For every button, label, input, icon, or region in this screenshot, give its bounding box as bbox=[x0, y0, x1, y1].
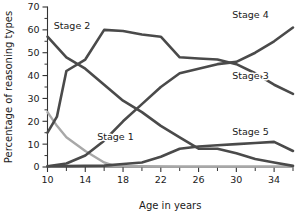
chart-plot-area: 01020304050607010141822263034Age in year… bbox=[0, 0, 301, 215]
x-axis-tick-label: 22 bbox=[155, 174, 167, 185]
series-line-stage-5 bbox=[48, 142, 294, 166]
x-axis-tick-label: 18 bbox=[117, 174, 129, 185]
y-axis-tick-label: 70 bbox=[27, 1, 39, 12]
series-label-stage-3: Stage 3 bbox=[232, 70, 269, 81]
series-line-stage-2 bbox=[48, 37, 294, 166]
y-axis-tick-label: 10 bbox=[27, 139, 39, 150]
series-label-stage-5: Stage 5 bbox=[232, 126, 269, 137]
y-axis-title: Percentage of reasoning types bbox=[3, 11, 14, 163]
series-label-stage-1: Stage 1 bbox=[97, 131, 134, 142]
y-axis-tick-label: 20 bbox=[27, 116, 39, 127]
y-axis-tick-label: 0 bbox=[33, 161, 39, 172]
x-axis-title: Age in years bbox=[139, 200, 201, 211]
y-axis-tick-label: 40 bbox=[27, 70, 39, 81]
x-axis-tick-label: 14 bbox=[79, 174, 91, 185]
y-axis-tick-label: 50 bbox=[27, 47, 39, 58]
x-axis-tick-label: 26 bbox=[193, 174, 205, 185]
y-axis-tick-label: 60 bbox=[27, 24, 39, 35]
x-axis-tick-label: 34 bbox=[268, 174, 280, 185]
series-label-stage-4: Stage 4 bbox=[232, 9, 269, 20]
x-axis-tick-label: 10 bbox=[41, 174, 53, 185]
y-axis-tick-label: 30 bbox=[27, 93, 39, 104]
line-chart-figure: 01020304050607010141822263034Age in year… bbox=[0, 0, 301, 215]
x-axis-tick-label: 30 bbox=[230, 174, 242, 185]
series-label-stage-2: Stage 2 bbox=[54, 20, 91, 31]
